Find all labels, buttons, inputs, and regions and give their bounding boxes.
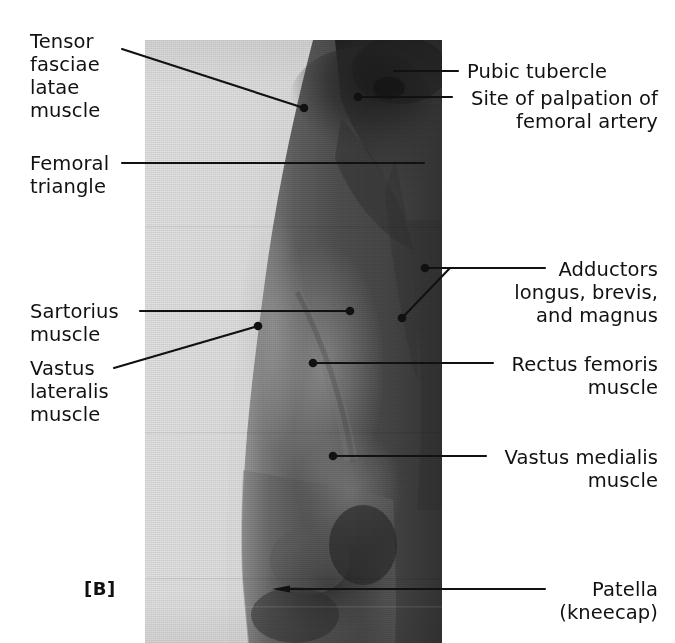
label-femoral-triangle: Femoral triangle — [30, 152, 109, 198]
label-rectus-femoris: Rectus femoris muscle — [511, 353, 658, 399]
panel-letter: [B] — [84, 578, 116, 599]
anatomy-figure: Tensor fasciae latae muscle Femoral tria… — [0, 0, 675, 643]
label-vastus-medialis: Vastus medialis muscle — [504, 446, 658, 492]
label-pubic-tubercle: Pubic tubercle — [467, 60, 607, 83]
label-sartorius: Sartorius muscle — [30, 300, 119, 346]
label-patella: Patella (kneecap) — [559, 578, 658, 624]
label-vastus-lateralis: Vastus lateralis muscle — [30, 357, 109, 426]
thigh-photograph — [145, 40, 442, 643]
limb-silhouette — [145, 40, 442, 643]
label-tensor-fasciae-latae: Tensor fasciae latae muscle — [30, 30, 100, 122]
label-site-of-palpation-femoral-artery: Site of palpation of femoral artery — [471, 87, 658, 133]
label-adductors: Adductors longus, brevis, and magnus — [514, 258, 658, 327]
